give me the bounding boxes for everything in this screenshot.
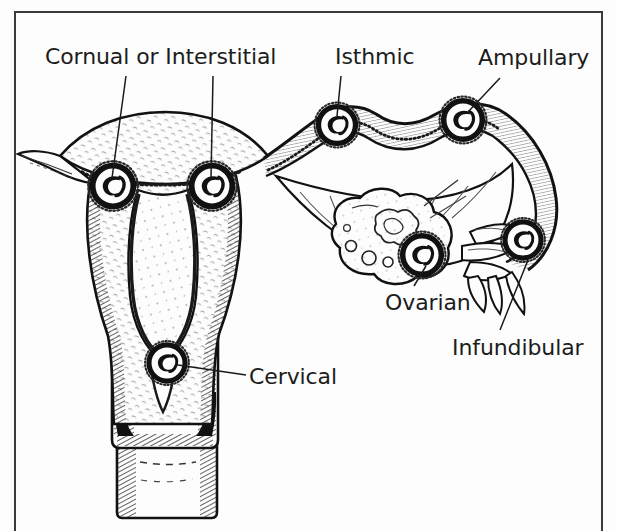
- anatomy-illustration: [0, 0, 617, 531]
- implantation-marker-ampullary: [440, 97, 487, 144]
- annotation-label-ovarian: Ovarian: [385, 292, 471, 314]
- annotation-label-cornual: Cornual or Interstitial: [45, 46, 276, 68]
- figure-root: Cornual or Interstitial Isthmic Ampullar…: [0, 0, 617, 531]
- annotation-label-infundibular: Infundibular: [452, 337, 584, 359]
- annotation-label-isthmic: Isthmic: [335, 46, 414, 68]
- annotation-label-cervical: Cervical: [249, 366, 337, 388]
- annotation-label-ampullary: Ampullary: [478, 47, 589, 69]
